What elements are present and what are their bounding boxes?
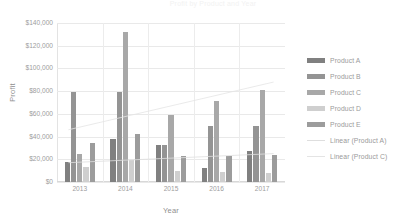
trendline-layer xyxy=(57,23,285,182)
x-axis-tick-label: 2015 xyxy=(148,185,194,192)
legend-label: Product D xyxy=(330,105,361,112)
legend-swatch xyxy=(307,58,325,63)
x-axis-title: Year xyxy=(57,206,285,215)
plot-area xyxy=(57,23,285,182)
legend-item[interactable]: Product A xyxy=(307,52,412,68)
legend-item[interactable]: Product C xyxy=(307,84,412,100)
legend-swatch xyxy=(307,122,325,127)
legend-label: Linear (Product A) xyxy=(330,137,387,144)
y-axis-tick-label: $40,000 xyxy=(1,133,53,140)
legend-label: Product E xyxy=(330,121,361,128)
trendline xyxy=(68,82,273,130)
y-axis-tick-label: $100,000 xyxy=(1,64,53,71)
legend-item[interactable]: Linear (Product C) xyxy=(307,148,412,164)
x-axis-tick-label: 2013 xyxy=(57,185,103,192)
chart-title: Profit by Product and Year xyxy=(118,0,308,11)
x-axis-tick-label: 2014 xyxy=(103,185,149,192)
legend-swatch xyxy=(307,90,325,95)
chart-legend: Product AProduct BProduct CProduct DProd… xyxy=(307,52,412,164)
legend-item[interactable]: Product B xyxy=(307,68,412,84)
x-axis-tick-label: 2017 xyxy=(239,185,285,192)
trendline xyxy=(68,154,273,163)
y-axis-tick-label: $20,000 xyxy=(1,155,53,162)
y-axis-tick-label: $80,000 xyxy=(1,87,53,94)
gridline xyxy=(57,182,285,183)
legend-swatch xyxy=(307,74,325,79)
y-axis-tick-labels: $140,000$120,000$100,000$80,000$60,000$4… xyxy=(0,23,53,182)
chart-container: Profit by Product and Year Profit $140,0… xyxy=(0,0,412,222)
legend-item[interactable]: Linear (Product A) xyxy=(307,132,412,148)
y-axis-tick-label: $140,000 xyxy=(1,19,53,26)
legend-label: Product B xyxy=(330,73,361,80)
legend-label: Linear (Product C) xyxy=(330,153,387,160)
legend-label: Product A xyxy=(330,57,360,64)
legend-label: Product C xyxy=(330,89,361,96)
legend-swatch xyxy=(307,106,325,111)
y-axis-tick-label: $60,000 xyxy=(1,110,53,117)
legend-line-marker xyxy=(307,140,325,141)
x-axis-tick-label: 2016 xyxy=(194,185,240,192)
y-axis-tick-label: $0 xyxy=(1,178,53,185)
legend-line-marker xyxy=(307,156,325,157)
legend-item[interactable]: Product E xyxy=(307,116,412,132)
y-axis-tick-label: $120,000 xyxy=(1,42,53,49)
legend-item[interactable]: Product D xyxy=(307,100,412,116)
